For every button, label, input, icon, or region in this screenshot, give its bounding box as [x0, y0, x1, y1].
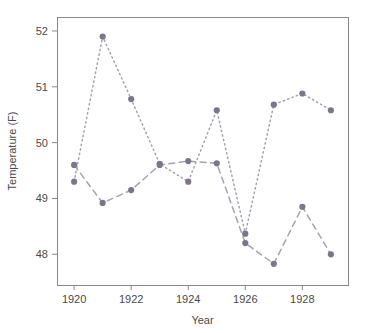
- y-tick-label: 51: [36, 81, 48, 93]
- x-axis-title: Year: [191, 314, 214, 326]
- series-dashed-point: [299, 204, 305, 210]
- series-dotted-point: [242, 231, 248, 237]
- series-dashed-point: [242, 240, 248, 246]
- y-tick-label: 50: [36, 137, 48, 149]
- series-dotted-point: [100, 33, 106, 39]
- series-dotted-point: [214, 107, 220, 113]
- x-tick-label: 1924: [176, 293, 200, 305]
- series-dashed-point: [128, 187, 134, 193]
- series-dashed-point: [214, 160, 220, 166]
- series-dashed-point: [185, 158, 191, 164]
- series-dotted-point: [271, 102, 277, 108]
- series-dotted-point: [185, 179, 191, 185]
- series-dotted-point: [128, 96, 134, 102]
- x-tick-label: 1922: [119, 293, 143, 305]
- x-tick-label: 1928: [290, 293, 314, 305]
- series-dashed-point: [71, 162, 77, 168]
- series-dotted-point: [328, 107, 334, 113]
- chart-background: [0, 0, 371, 333]
- x-tick-label: 1920: [62, 293, 86, 305]
- series-dashed-point: [271, 261, 277, 267]
- chart-container: 4849505152 19201922192419261928 Year Tem…: [0, 0, 371, 333]
- y-tick-label: 52: [36, 25, 48, 37]
- series-dashed-point: [328, 251, 334, 257]
- x-tick-label: 1926: [233, 293, 257, 305]
- temperature-line-chart: 4849505152 19201922192419261928 Year Tem…: [0, 0, 371, 333]
- series-dashed-point: [100, 200, 106, 206]
- series-dotted-point: [299, 90, 305, 96]
- series-dashed-point: [157, 162, 163, 168]
- series-dotted-point: [71, 179, 77, 185]
- y-tick-label: 48: [36, 248, 48, 260]
- y-axis-title: Temperature (F): [6, 112, 18, 191]
- y-tick-label: 49: [36, 192, 48, 204]
